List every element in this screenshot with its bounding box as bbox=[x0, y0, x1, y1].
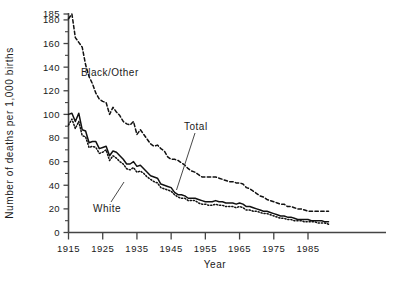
y-tick-label: 160 bbox=[43, 38, 60, 49]
y-tick-label: 80 bbox=[49, 132, 60, 143]
x-axis-tick-labels: 19151925193519451955196519751985 bbox=[57, 243, 320, 254]
chart-plot-area: 020406080100120140160180185 191519251935… bbox=[0, 0, 395, 285]
y-tick-label: 0 bbox=[54, 227, 60, 238]
series-line-black-other bbox=[69, 14, 329, 211]
x-tick-label: 1955 bbox=[194, 243, 217, 254]
x-tick-label: 1985 bbox=[296, 243, 319, 254]
x-axis-ticks bbox=[69, 233, 309, 240]
series-annotation-black-other: Black/Other bbox=[81, 67, 139, 78]
x-tick-label: 1965 bbox=[228, 243, 251, 254]
y-tick-label: 60 bbox=[49, 156, 60, 167]
y-tick-label: 40 bbox=[49, 180, 60, 191]
y-tick-label: 20 bbox=[49, 203, 60, 214]
series-annotation-total: Total bbox=[184, 121, 208, 132]
x-tick-label: 1945 bbox=[160, 243, 183, 254]
y-tick-label: 120 bbox=[43, 85, 60, 96]
y-tick-label: 185 bbox=[43, 8, 60, 19]
series-annotation-white: White bbox=[93, 203, 121, 214]
x-tick-label: 1925 bbox=[91, 243, 114, 254]
x-tick-label: 1915 bbox=[57, 243, 80, 254]
leader-line-white bbox=[111, 182, 124, 202]
x-axis-title: Year bbox=[204, 259, 227, 270]
y-tick-label: 140 bbox=[43, 62, 60, 73]
y-axis-title: Number of deaths per 1,000 births bbox=[4, 47, 15, 219]
infant-mortality-chart: 020406080100120140160180185 191519251935… bbox=[0, 0, 395, 285]
x-tick-label: 1935 bbox=[125, 243, 148, 254]
y-axis-tick-labels: 020406080100120140160180185 bbox=[43, 8, 60, 238]
x-tick-label: 1975 bbox=[262, 243, 285, 254]
y-tick-label: 100 bbox=[43, 109, 60, 120]
